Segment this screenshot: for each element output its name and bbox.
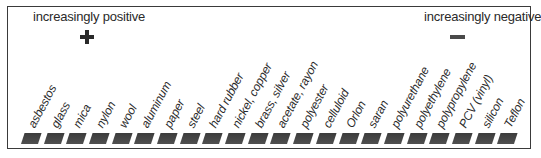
material-swatch	[384, 133, 405, 144]
material-item: brass, silver	[248, 0, 272, 158]
material-item: polyester	[293, 0, 317, 158]
material-item: acetate, rayon	[270, 0, 294, 158]
material-item: aluminum	[134, 0, 158, 158]
material-item: wool	[112, 0, 136, 158]
material-swatch	[157, 133, 178, 144]
material-swatch	[89, 133, 110, 144]
material-swatch	[44, 133, 65, 144]
material-item: asbestos	[21, 0, 45, 158]
material-swatch	[66, 133, 87, 144]
material-swatch	[429, 133, 450, 144]
material-swatch	[248, 133, 269, 144]
material-item: Orlon	[339, 0, 363, 158]
material-swatch	[339, 133, 360, 144]
material-item: saran	[361, 0, 385, 158]
material-label: Teflon	[502, 97, 527, 130]
material-item: glass	[44, 0, 68, 158]
material-item: polyethylene	[407, 0, 431, 158]
material-item: nickel, copper	[225, 0, 249, 158]
material-swatch	[180, 133, 201, 144]
material-swatch	[316, 133, 337, 144]
material-item: polypropylene	[429, 0, 453, 158]
material-item: PCV (vinyl)	[452, 0, 476, 158]
material-swatch	[407, 133, 428, 144]
material-item: Teflon	[497, 0, 521, 158]
material-swatch	[452, 133, 473, 144]
material-swatch	[497, 133, 518, 144]
material-swatch	[293, 133, 314, 144]
material-item: celluloid	[316, 0, 340, 158]
material-swatch	[112, 133, 133, 144]
material-item: paper	[157, 0, 181, 158]
material-swatch	[475, 133, 496, 144]
material-swatch	[21, 133, 42, 144]
material-swatch	[225, 133, 246, 144]
material-item: nylon	[89, 0, 113, 158]
material-item: hard rubber	[202, 0, 226, 158]
material-item: steel	[180, 0, 204, 158]
material-item: mica	[66, 0, 90, 158]
material-item: polyurethane	[384, 0, 408, 158]
material-item: silicon	[475, 0, 499, 158]
material-swatch	[361, 133, 382, 144]
material-swatch	[270, 133, 291, 144]
material-swatch	[202, 133, 223, 144]
material-swatch	[134, 133, 155, 144]
